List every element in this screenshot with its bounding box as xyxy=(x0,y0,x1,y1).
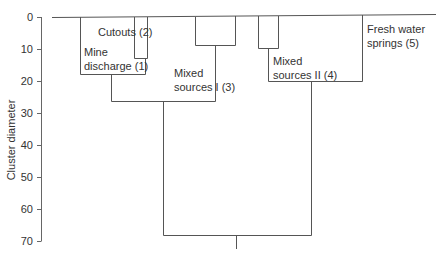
label-mixed2-line2: sources II (4) xyxy=(273,69,337,81)
y-tick-10: 10 xyxy=(21,43,33,55)
y-tick-labels: 0 10 20 30 40 50 60 70 xyxy=(21,11,33,247)
y-tick-50: 50 xyxy=(21,171,33,183)
dendrogram-links xyxy=(52,15,436,250)
label-cutouts: Cutouts (2) xyxy=(98,26,152,38)
label-mine-line2: discharge (1) xyxy=(84,60,148,72)
dendrogram-chart: 0 10 20 30 40 50 60 70 Cluster diameter xyxy=(0,0,437,259)
y-axis xyxy=(37,17,42,242)
y-tick-40: 40 xyxy=(21,139,33,151)
label-mixed1-line1: Mixed xyxy=(174,67,203,79)
y-axis-label: Cluster diameter xyxy=(5,99,17,180)
label-mixed1-line2: sources I (3) xyxy=(174,81,235,93)
label-fresh-line2: springs (5) xyxy=(367,37,419,49)
label-mixed2-line1: Mixed xyxy=(273,55,302,67)
y-tick-70: 70 xyxy=(21,235,33,247)
dendrogram-svg: 0 10 20 30 40 50 60 70 Cluster diameter xyxy=(0,0,437,259)
y-tick-30: 30 xyxy=(21,107,33,119)
label-mine-line1: Mine xyxy=(84,46,108,58)
y-tick-0: 0 xyxy=(27,11,33,23)
y-tick-60: 60 xyxy=(21,203,33,215)
y-tick-20: 20 xyxy=(21,75,33,87)
label-fresh-line1: Fresh water xyxy=(367,23,425,35)
